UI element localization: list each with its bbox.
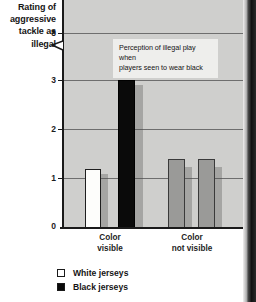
- bar-white-jerseys-color-not-visible[interactable]: [168, 159, 185, 228]
- annotation-callout: Perception of illegal play when players …: [113, 39, 218, 78]
- bar-black-jerseys-color-visible[interactable]: [118, 80, 135, 228]
- x-axis-line: [60, 227, 246, 229]
- ytick-mark-1: [58, 178, 62, 179]
- ytick-label-0: 0: [42, 221, 56, 231]
- gridline-8: [62, 33, 244, 34]
- gridline-3: [62, 80, 244, 81]
- ytick-label-2: 2: [42, 124, 56, 134]
- y-axis-line: [62, 0, 64, 228]
- legend-item-black-jerseys[interactable]: Black jerseys: [57, 280, 128, 294]
- legend-label-white-jerseys: White jerseys: [73, 268, 128, 278]
- ytick-label-3: 3: [42, 75, 56, 85]
- ytick-mark-3: [58, 80, 62, 81]
- annotation-line-1: Perception of illegal play when: [119, 43, 213, 63]
- chart-figure: Perception of illegal play when players …: [0, 0, 256, 302]
- legend-item-white-jerseys[interactable]: White jerseys: [57, 266, 128, 280]
- bar-shadow-white-visible: [100, 174, 108, 228]
- ytick-label-1: 1: [42, 173, 56, 183]
- ytick-mark-8: [58, 33, 62, 34]
- category-label-color-not-visible-line-2: not visible: [152, 243, 232, 254]
- legend-swatch-black-icon: [57, 283, 65, 291]
- bar-shadow-black-visible: [134, 85, 143, 228]
- legend-swatch-white-icon: [57, 269, 65, 277]
- y-axis-title-line-4: illegal: [0, 38, 56, 50]
- category-label-color-not-visible: Color not visible: [152, 232, 232, 254]
- bar-shadow-gray-notvisible-2: [214, 167, 222, 228]
- category-label-color-visible-line-2: visible: [70, 243, 150, 254]
- annotation-line-2: players seen to wear black: [119, 63, 213, 73]
- bar-white-jerseys-color-visible[interactable]: [85, 169, 101, 228]
- category-label-color-visible-line-1: Color: [70, 232, 150, 243]
- legend-label-black-jerseys: Black jerseys: [73, 282, 128, 292]
- page-edge-shadow: [246, 0, 256, 302]
- y-axis-title: Rating of aggressive tackle as illegal: [0, 1, 56, 50]
- category-label-color-visible: Color visible: [70, 232, 150, 254]
- ytick-mark-2: [58, 129, 62, 130]
- gridline-2: [62, 129, 244, 130]
- bar-black-jerseys-color-not-visible[interactable]: [198, 159, 215, 228]
- bar-shadow-gray-notvisible-1: [184, 167, 192, 228]
- category-label-color-not-visible-line-1: Color: [152, 232, 232, 243]
- y-axis-title-line-1: Rating of: [0, 1, 56, 13]
- y-axis-title-line-2: aggressive: [0, 13, 56, 25]
- y-axis-title-line-3: tackle as: [0, 25, 56, 37]
- legend: White jerseys Black jerseys: [57, 266, 128, 294]
